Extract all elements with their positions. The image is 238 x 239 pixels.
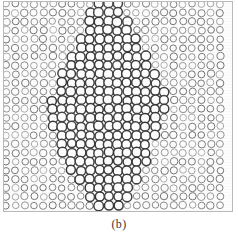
lattice-ring (207, 193, 214, 200)
lattice-ring (170, 167, 177, 174)
lattice-ring (50, 36, 57, 43)
lattice-ring (30, 88, 37, 95)
lattice-ring-defect (103, 95, 112, 104)
lattice-ring-defect (75, 61, 85, 71)
lattice-ring-defect (104, 131, 113, 140)
lattice-ring (4, 115, 10, 122)
lattice-ring (40, 9, 47, 16)
lattice-ring-defect (104, 201, 113, 210)
lattice-ring (77, 9, 84, 16)
lattice-ring (4, 123, 10, 130)
micrograph-panel (3, 1, 233, 212)
lattice-ring-defect (123, 43, 132, 52)
lattice-ring (189, 184, 196, 191)
lattice-ring (198, 158, 205, 165)
lattice-ring (217, 36, 224, 43)
lattice-ring (12, 167, 19, 174)
lattice-ring (11, 62, 18, 69)
lattice-ring (180, 141, 187, 148)
lattice-ring (198, 115, 205, 122)
lattice-ring (198, 132, 205, 139)
lattice-ring (151, 45, 158, 52)
lattice-ring (207, 87, 215, 95)
lattice-ring (30, 27, 37, 34)
lattice-ring (207, 79, 214, 86)
lattice-ring (208, 140, 215, 147)
lattice-ring (4, 202, 9, 209)
lattice-ring (21, 176, 28, 183)
lattice-ring (22, 79, 30, 87)
lattice-ring (161, 158, 168, 165)
lattice-ring (40, 44, 47, 51)
lattice-ring (170, 10, 177, 17)
lattice-ring (133, 18, 140, 25)
lattice-ring (188, 106, 196, 114)
lattice-ring (161, 71, 168, 78)
lattice-ring (40, 2, 47, 8)
lattice-ring (30, 158, 37, 165)
lattice-ring-defect (141, 51, 151, 61)
lattice-ring (198, 97, 205, 104)
lattice-ring (50, 150, 57, 157)
lattice-ring-defect (77, 130, 86, 139)
figure-container: (b) (0, 0, 238, 239)
lattice-ring (152, 140, 159, 147)
lattice-ring-defect (86, 43, 95, 52)
lattice-ring (4, 71, 10, 78)
colloidal-lattice-image (4, 2, 232, 211)
lattice-ring-defect (105, 192, 114, 201)
lattice-ring (133, 202, 140, 209)
lattice-ring (197, 193, 205, 201)
lattice-ring (207, 70, 214, 77)
lattice-ring (161, 149, 168, 156)
lattice-ring (12, 150, 19, 157)
lattice-ring (40, 88, 47, 95)
lattice-ring (216, 184, 223, 191)
lattice-ring (161, 62, 167, 68)
lattice-ring (59, 202, 66, 209)
lattice-ring (197, 36, 204, 43)
lattice-ring (152, 61, 159, 68)
lattice-ring (4, 168, 9, 175)
lattice-ring-defect (160, 104, 169, 113)
lattice-ring (207, 18, 214, 25)
lattice-ring (216, 26, 223, 33)
lattice-ring (142, 10, 149, 17)
lattice-ring (198, 167, 205, 174)
lattice-ring (22, 88, 29, 95)
lattice-ring (21, 62, 28, 69)
lattice-ring (12, 36, 19, 43)
lattice-ring (171, 123, 178, 130)
lattice-ring-defect (150, 130, 159, 139)
lattice-ring (207, 131, 214, 138)
lattice-ring (59, 158, 66, 165)
lattice-ring (217, 123, 224, 130)
lattice-ring-defect (114, 201, 123, 210)
lattice-ring-defect (67, 121, 76, 130)
lattice-ring (179, 36, 186, 43)
lattice-ring-defect (131, 95, 141, 105)
lattice-ring-defect (151, 86, 160, 95)
lattice-ring (40, 27, 47, 34)
lattice-ring-defect (132, 78, 141, 87)
lattice-ring (31, 62, 38, 69)
lattice-ring (179, 123, 186, 130)
lattice-ring (12, 53, 19, 60)
lattice-ring (180, 166, 187, 173)
lattice-ring (216, 10, 223, 17)
lattice-ring-defect (85, 78, 94, 87)
lattice-ring (77, 2, 84, 8)
lattice-ring (59, 19, 66, 26)
lattice-ring (170, 2, 177, 8)
lattice-ring (4, 45, 9, 52)
lattice-ring (152, 193, 159, 200)
lattice-ring (170, 141, 177, 148)
lattice-ring (50, 26, 57, 33)
lattice-ring (207, 2, 213, 7)
lattice-ring (207, 105, 214, 112)
lattice-ring-defect (132, 104, 141, 113)
lattice-ring (179, 105, 187, 113)
lattice-ring (4, 26, 10, 33)
lattice-ring (21, 149, 28, 156)
lattice-ring-defect (95, 60, 104, 69)
